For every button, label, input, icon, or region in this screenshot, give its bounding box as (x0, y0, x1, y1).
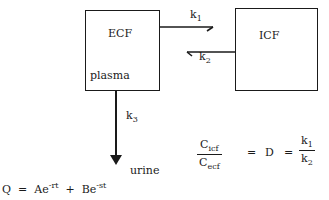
k1-arrow (160, 27, 213, 31)
q-equation: Q = Ae-rt + Be-st (2, 181, 106, 196)
k1-numerator: k1 (299, 134, 315, 149)
equals-sign-2: = (284, 146, 293, 159)
d-label: D (265, 146, 274, 159)
k3-arrow (110, 91, 122, 165)
arrows (0, 0, 329, 200)
k3-label: k3 (126, 109, 138, 124)
urine-label: urine (130, 164, 159, 177)
c-icf: Cicf (197, 138, 222, 153)
k2-label: k2 (199, 50, 211, 65)
k2-arrow (187, 52, 235, 56)
k2-denominator: k2 (299, 152, 315, 167)
equals-sign-1: = (247, 146, 256, 159)
rate-ratio: k1 k2 (299, 134, 315, 167)
c-ecf: Cecf (197, 156, 222, 171)
concentration-ratio: Cicf Cecf (197, 138, 222, 171)
k1-label: k1 (190, 8, 202, 23)
